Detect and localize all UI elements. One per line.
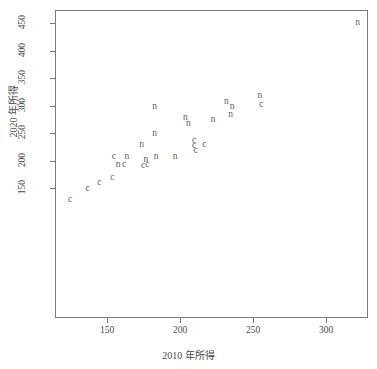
plot-area: cccccccccccccnnnnnnnnnnnnnnnn [56,11,367,317]
x-tick-label: 250 [233,325,273,335]
data-point: n [152,129,157,139]
data-point: c [193,146,197,156]
data-point: c [68,195,72,205]
plot-frame: cccccccccccccnnnnnnnnnnnnnnnn [55,10,368,318]
x-axis-label: 2010 年所得 [0,347,377,362]
data-point: n [228,110,233,120]
data-point: c [202,140,206,150]
data-point: n [116,160,121,170]
data-point: c [122,161,126,171]
data-point: n [152,102,157,112]
data-point: n [211,116,216,126]
data-point: n [154,152,159,162]
data-point: n [144,155,149,165]
data-point: c [97,178,101,188]
data-point: n [139,140,144,150]
data-point: c [259,101,263,111]
x-tick-mark [326,318,327,323]
x-tick-mark [253,318,254,323]
x-tick-label: 300 [306,325,346,335]
y-tick-label: 450 [17,0,27,44]
x-tick-label: 200 [160,325,200,335]
x-tick-mark [180,318,181,323]
data-point: n [224,97,229,107]
data-point: n [125,152,130,162]
data-point: n [186,119,191,129]
data-point: n [257,91,262,101]
scatter-plot-figure: 2020 年所得 150200250300350400450 150200250… [0,0,377,369]
x-tick-mark [107,318,108,323]
data-point: c [85,184,89,194]
data-point: n [355,18,360,28]
data-point: c [110,173,114,183]
data-point: n [173,152,178,162]
x-tick-label: 150 [87,325,127,335]
